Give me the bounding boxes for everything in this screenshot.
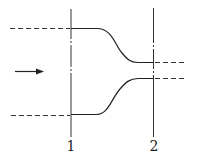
contraction-diagram: 1 2 bbox=[0, 0, 198, 157]
section-label-1: 1 bbox=[67, 138, 76, 154]
upper-wall bbox=[71, 29, 154, 63]
lower-wall bbox=[71, 79, 154, 115]
arrow-right-icon bbox=[15, 69, 44, 75]
section-label-2: 2 bbox=[150, 138, 159, 154]
